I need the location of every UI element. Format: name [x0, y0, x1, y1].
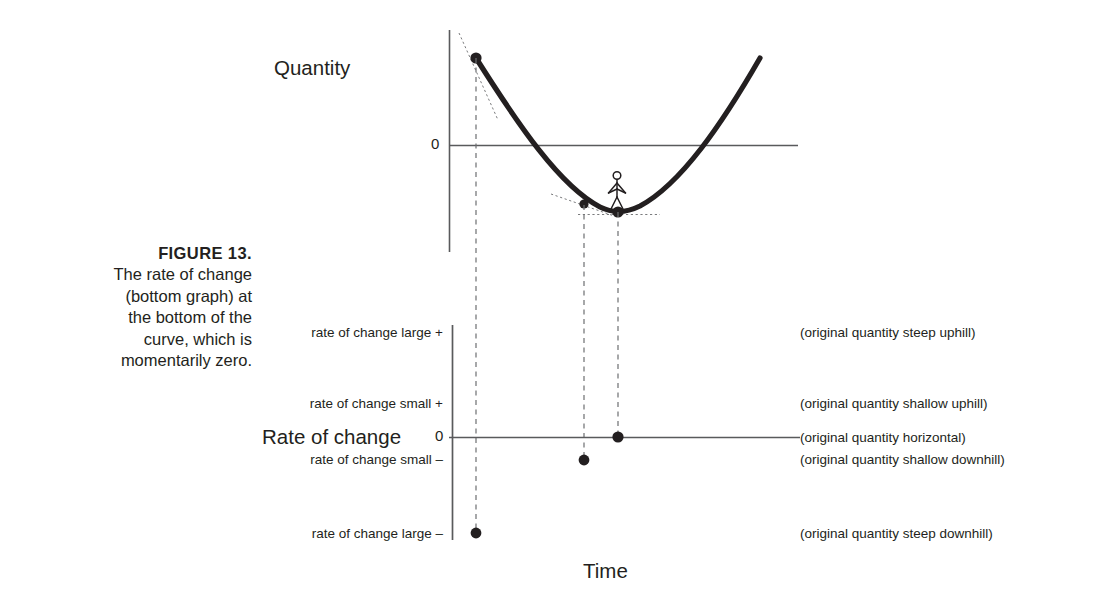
note-steep-downhill: (original quantity steep downhill) [800, 526, 993, 541]
note-shallow-uphill: (original quantity shallow uphill) [800, 396, 988, 411]
rate-of-change-axis-title: Rate of change [262, 425, 401, 449]
tangent-steep-downhill [459, 33, 498, 120]
bottom-graph [449, 325, 800, 540]
figure-caption: FIGURE 13. The rate of change (bottom gr… [0, 243, 252, 372]
quantity-axis-title: Quantity [274, 56, 350, 80]
curve-point-shallow-downhill [579, 199, 588, 208]
curve-point-minimum [612, 206, 623, 217]
top-graph-zero-label: 0 [431, 135, 439, 152]
note-shallow-downhill: (original quantity shallow downhill) [800, 452, 1005, 467]
stick-figure-icon [609, 172, 626, 211]
rate-tick-large-minus: rate of change large – [143, 526, 443, 541]
curve-point-steep-downhill [470, 52, 481, 63]
bottom-graph-zero-label: 0 [435, 427, 443, 444]
rate-point-small-minus [579, 455, 590, 466]
figure-caption-title: FIGURE 13. [0, 243, 252, 264]
rate-tick-small-plus: rate of change small + [143, 396, 443, 411]
rate-tick-small-minus: rate of change small – [143, 452, 443, 467]
figure-13: FIGURE 13. The rate of change (bottom gr… [0, 0, 1102, 599]
figure-caption-body: The rate of change (bottom graph) at the… [0, 264, 252, 371]
connector-lines [476, 58, 618, 533]
rate-tick-large-plus: rate of change large + [143, 325, 443, 340]
rate-point-large-minus [471, 528, 482, 539]
rate-point-zero [612, 431, 623, 442]
note-horizontal: (original quantity horizontal) [800, 430, 966, 445]
tangent-shallow-downhill [551, 194, 617, 217]
top-graph [450, 30, 799, 252]
time-axis-title: Time [583, 559, 628, 583]
note-steep-uphill: (original quantity steep uphill) [800, 325, 976, 340]
quantity-curve [476, 58, 760, 211]
